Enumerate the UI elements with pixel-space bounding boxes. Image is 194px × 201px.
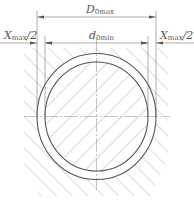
- dimension-left-clearance: Xmax/2: [0, 29, 52, 45]
- shaft-hatch: [40, 58, 155, 176]
- svg-text:d0min: d0min: [89, 29, 114, 42]
- svg-text:Xmax/2: Xmax/2: [3, 29, 37, 42]
- svg-text:D0max: D0max: [85, 3, 114, 16]
- dimension-right-clearance: Xmax/2: [141, 29, 194, 45]
- svg-text:Xmax/2: Xmax/2: [159, 29, 193, 42]
- dimension-D0max: D0max: [37, 3, 156, 19]
- tolerance-diagram: D0max d0min Xmax/2 Xmax/2: [0, 0, 194, 201]
